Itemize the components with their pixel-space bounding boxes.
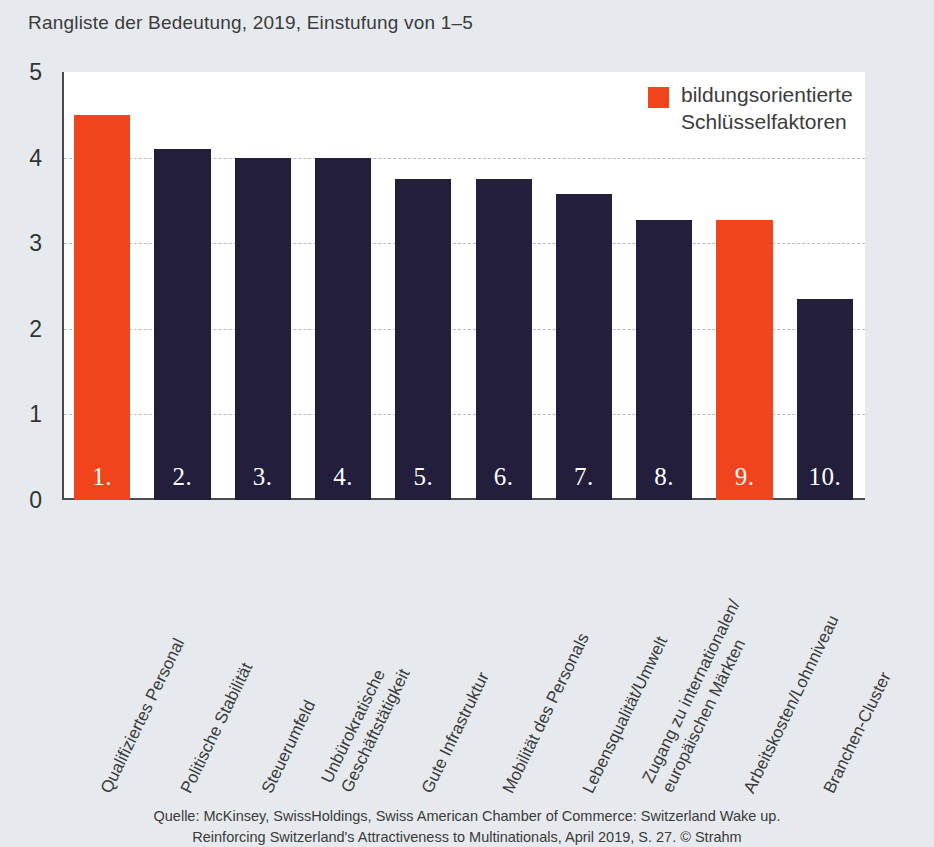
source-caption: Quelle: McKinsey, SwissHoldings, Swiss A… [0,806,934,847]
y-tick-1: 1 [29,401,42,428]
legend-label: bildungsorientierte Schlüsselfaktoren [681,82,853,136]
x-axis-label-3: Steuerumfeld [257,696,321,797]
y-tick-4: 4 [29,144,42,171]
bar-1[interactable]: 1. [74,115,130,500]
x-axis-label-6: Mobilität des Personals [497,629,594,797]
x-axis-label-4: Unbürokratische Geschäftstätigkeit [317,656,417,797]
bar-rank-label-4: 4. [315,463,371,491]
bar-rank-label-9: 9. [716,463,772,491]
x-axis-labels: Qualifiziertes PersonalPolitische Stabil… [62,500,865,805]
bar-rank-label-5: 5. [395,463,451,491]
legend: bildungsorientierte Schlüsselfaktoren [648,82,853,136]
bar-rank-label-8: 8. [636,463,692,491]
x-axis-label-1: Qualifiziertes Personal [96,634,191,797]
y-tick-3: 3 [29,230,42,257]
bar-9[interactable]: 9. [716,220,772,500]
bar-rank-label-1: 1. [74,463,130,491]
y-tick-5: 5 [29,59,42,86]
bar-rank-label-3: 3. [235,463,291,491]
bar-6[interactable]: 6. [476,179,532,500]
bar-7[interactable]: 7. [556,194,612,500]
chart-title: Rangliste der Bedeutung, 2019, Einstufun… [28,12,473,34]
legend-swatch-icon [648,87,669,108]
bar-rank-label-7: 7. [556,463,612,491]
bar-series: 1.2.3.4.5.6.7.8.9.10. [62,72,865,500]
bar-8[interactable]: 8. [636,220,692,500]
bar-3[interactable]: 3. [235,158,291,500]
x-axis-label-5: Gute Infrastruktur [417,668,495,797]
y-tick-0: 0 [29,487,42,514]
bar-rank-label-2: 2. [154,463,210,491]
x-axis-label-2: Politische Stabilität [176,659,259,797]
bar-10[interactable]: 10. [797,299,853,500]
x-axis-label-8: Zugang zu internationalen/ europäischen … [638,596,767,797]
y-tick-2: 2 [29,315,42,342]
bar-5[interactable]: 5. [395,179,451,500]
bar-rank-label-6: 6. [476,463,532,491]
y-axis: 5 4 3 2 1 0 [0,72,54,500]
bar-4[interactable]: 4. [315,158,371,500]
bar-2[interactable]: 2. [154,149,210,500]
bar-rank-label-10: 10. [797,463,853,491]
x-axis-label-10: Branchen-Cluster [819,668,897,797]
